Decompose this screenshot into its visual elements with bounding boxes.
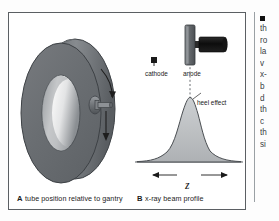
label-z-axis: Z	[185, 182, 190, 191]
gantry-ring-body	[21, 39, 115, 183]
label-anode: anode	[183, 70, 201, 77]
z-axis-arrow	[152, 172, 228, 178]
anode-assembly	[185, 25, 228, 65]
caption-panel-b: Bx-ray beam profile	[137, 194, 203, 203]
figure-panel-container: Atube position relative to gantry	[8, 12, 246, 210]
text-line: v	[260, 58, 279, 70]
text-line: la	[260, 46, 279, 58]
gantry-illustration	[13, 27, 127, 187]
panel-b-beam-profile: cathode anode heel effect Z Bx-ray beam …	[131, 13, 247, 209]
label-cathode: cathode	[145, 70, 168, 77]
text-line: ro	[260, 35, 279, 47]
text-line: x-	[260, 69, 279, 81]
beam-profile-graphic	[131, 19, 247, 194]
panel-a-gantry: Atube position relative to gantry	[9, 13, 131, 209]
label-heel-effect: heel effect	[197, 99, 226, 106]
caption-b-tag: B	[137, 194, 143, 203]
text-line: th	[260, 23, 279, 35]
caption-a-tag: A	[17, 194, 23, 203]
beam-intensity-curve	[137, 98, 241, 163]
tube-housing	[199, 37, 225, 52]
text-line: d	[260, 93, 279, 105]
text-line: c	[260, 116, 279, 128]
beam-profile-illustration: cathode anode heel effect Z	[131, 19, 247, 194]
cathode-block	[151, 57, 157, 63]
gantry-ring-graphic	[13, 27, 127, 187]
square-bullet-icon	[260, 16, 265, 21]
caption-panel-a: Atube position relative to gantry	[17, 194, 123, 203]
text-line: b	[260, 81, 279, 93]
page-canvas: Atube position relative to gantry	[0, 0, 279, 221]
body-text-column: th ro la v x- b d th c th si	[254, 12, 279, 202]
caption-a-text: tube position relative to gantry	[25, 194, 123, 203]
caption-b-text: x-ray beam profile	[145, 194, 203, 203]
text-line: si	[260, 139, 279, 151]
text-line: th	[260, 127, 279, 139]
text-line: th	[260, 104, 279, 116]
